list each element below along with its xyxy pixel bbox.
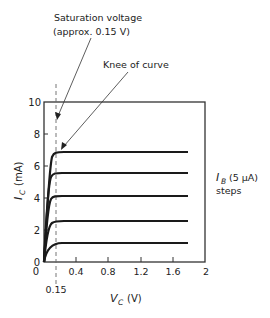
saturation-leader-line	[58, 38, 91, 116]
svg-text:0.4: 0.4	[68, 266, 83, 277]
curve-3	[44, 196, 188, 262]
svg-text:1.2: 1.2	[133, 266, 148, 277]
curve-5	[44, 152, 188, 262]
svg-text:steps: steps	[216, 185, 242, 196]
svg-text:10: 10	[28, 97, 41, 108]
svg-text:8: 8	[34, 129, 40, 140]
svg-text:6: 6	[34, 161, 40, 172]
knee-leader-line	[64, 72, 128, 146]
svg-text:C: C	[118, 298, 124, 307]
svg-text:1.6: 1.6	[165, 266, 180, 277]
svg-text:2: 2	[34, 225, 40, 236]
x-axis-label: V C (V)	[110, 292, 142, 307]
plot-frame	[44, 102, 205, 262]
svg-text:I: I	[12, 197, 25, 200]
svg-text:(V): (V)	[127, 293, 142, 304]
series-label: I B (5 μA) steps	[216, 171, 258, 196]
y-axis-label: I C (mA)	[12, 162, 27, 200]
x-tick-labels: 0.4 0.8 1.2 1.6 2	[68, 266, 209, 277]
svg-text:2: 2	[203, 266, 209, 277]
saturation-label-line2: (approx. 0.15 V)	[53, 26, 130, 37]
svg-text:4: 4	[34, 193, 40, 204]
characteristic-curves	[44, 152, 188, 262]
svg-text:C: C	[18, 189, 27, 195]
origin-label: 0	[33, 266, 39, 277]
curve-4	[44, 173, 188, 262]
y-tick-labels: 0 2 4 6 8 10	[28, 97, 41, 268]
curve-1	[44, 243, 188, 262]
svg-text:I: I	[216, 171, 219, 184]
transistor-characteristic-chart: Saturation voltage (approx. 0.15 V) Knee…	[0, 0, 270, 318]
x-ticks	[76, 257, 173, 262]
curve-2	[44, 221, 188, 262]
svg-text:(5 μA): (5 μA)	[229, 172, 258, 183]
svg-text:(mA): (mA)	[13, 162, 24, 186]
reference-line-label: 0.15	[45, 284, 66, 295]
svg-text:0.8: 0.8	[100, 266, 115, 277]
saturation-label-line1: Saturation voltage	[54, 12, 142, 23]
knee-label: Knee of curve	[103, 59, 169, 70]
